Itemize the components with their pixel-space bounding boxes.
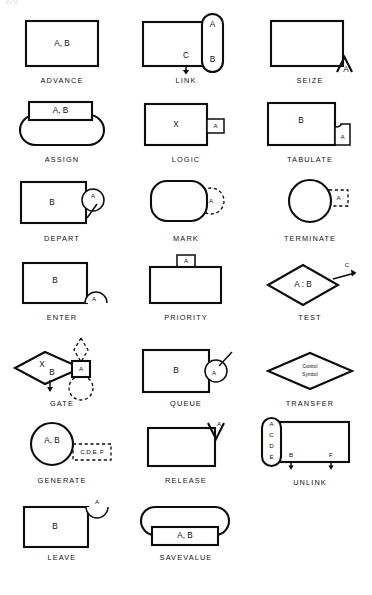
symbol-logic: X A LOGIC [124, 97, 248, 164]
depart-caption: DEPART [44, 234, 80, 243]
depart-diagram: B A [7, 176, 117, 232]
queue-diagram: B A [131, 336, 241, 400]
link-operand-b-label: B [210, 55, 216, 64]
gate-caption: GATE [50, 399, 74, 408]
logic-diagram: X A [131, 97, 241, 153]
symbol-seize: A SEIZE [248, 12, 372, 85]
release-operand-label: A [217, 420, 222, 427]
page-number: 370 [5, 0, 18, 5]
depart-art: B A [0, 176, 124, 232]
savevalue-art: A, B [124, 495, 248, 551]
symbol-advance: A, B ADVANCE [0, 12, 124, 85]
queue-operand-b-label: B [173, 366, 179, 375]
transfer-diagram: Control Symbol [255, 336, 365, 400]
test-arrowhead [351, 270, 357, 277]
unlink-art: A C D E B F [248, 418, 372, 474]
assign-caption: ASSIGN [45, 155, 80, 164]
block-symbol-sheet: A, B ADVANCE A B C LINK [0, 12, 372, 595]
unlink-arrowhead-f [328, 466, 333, 471]
gate-operand-b-label: B [49, 368, 55, 377]
unlink-arrowhead-b [288, 466, 293, 471]
advance-art: A, B [0, 12, 124, 74]
tabulate-diagram: B A [255, 97, 365, 153]
queue-caption: QUEUE [170, 399, 202, 408]
symbol-depart: B A DEPART [0, 176, 124, 243]
generate-diagram: A, B C,D,E, F [7, 418, 117, 474]
link-caption: LINK [176, 76, 197, 85]
gate-arrowhead [47, 387, 53, 392]
symbol-generate: A, B C,D,E, F GENERATE [0, 418, 124, 487]
enter-caption: ENTER [47, 313, 78, 322]
symbol-unlink: A C D E B F UNLINK [248, 418, 372, 487]
gate-diagram: X B A [7, 336, 117, 400]
release-art: A [124, 418, 248, 474]
leave-operand-a-label: A [95, 498, 100, 505]
symbol-row-6: A, B C,D,E, F GENERATE A RELEASE [0, 418, 372, 487]
advance-diagram: A, B [7, 12, 117, 74]
symbol-release: A RELEASE [124, 418, 248, 487]
priority-art: A [124, 255, 248, 311]
mark-diagram: A [131, 176, 241, 232]
priority-diagram: A [131, 255, 241, 311]
generate-art: A, B C,D,E, F [0, 418, 124, 474]
terminate-caption: TERMINATE [284, 234, 336, 243]
transfer-label-line1: Control [303, 364, 318, 369]
leave-operand-b-label: B [52, 522, 58, 531]
mark-caption: MARK [173, 234, 199, 243]
assign-diagram: A, B [7, 97, 117, 153]
symbol-enter: B A ENTER [0, 255, 124, 322]
unlink-operand-d-label: D [269, 442, 274, 449]
priority-caption: PRIORITY [164, 313, 208, 322]
release-caption: RELEASE [165, 476, 207, 485]
symbol-row-1: A, B ADVANCE A B C LINK [0, 12, 372, 85]
logic-operand-x-label: X [173, 120, 179, 129]
symbol-queue: B A QUEUE [124, 336, 248, 408]
unlink-diagram: A C D E B F [255, 418, 365, 474]
symbol-link: A B C LINK [124, 12, 248, 85]
symbol-gate: X B A GATE [0, 336, 124, 408]
savevalue-operand-label: A, B [177, 531, 193, 540]
symbol-tabulate: B A TABULATE [248, 97, 372, 164]
transfer-label-line2: Symbol [302, 372, 317, 377]
seize-caption: SEIZE [297, 76, 324, 85]
seize-operand-label: A [343, 65, 349, 74]
seize-art: A [248, 12, 372, 74]
symbol-row-3: B A DEPART A MARK A [0, 176, 372, 243]
gate-art: X B A [0, 336, 124, 400]
assign-art: A, B [0, 97, 124, 153]
seize-diagram: A [255, 12, 365, 74]
unlink-caption: UNLINK [293, 478, 327, 487]
link-arrowhead [183, 70, 189, 75]
enter-art: B A [0, 255, 124, 311]
enter-diagram: B A [7, 255, 117, 311]
gate-operand-x-label: X [39, 360, 45, 369]
terminate-diagram: A [255, 176, 365, 232]
savevalue-diagram: A, B [131, 495, 241, 551]
link-art: A B C [124, 12, 248, 74]
symbol-test: A : B C TEST [248, 255, 372, 322]
symbol-row-7: B A LEAVE A, B SAVEVALUE [0, 495, 372, 562]
advance-caption: ADVANCE [41, 76, 84, 85]
symbol-row-4: B A ENTER A PRIORITY A : B [0, 255, 372, 322]
link-diagram: A B C [131, 12, 241, 74]
test-operand-c-label: C [345, 261, 350, 268]
leave-art: B A [0, 495, 124, 551]
mark-art: A [124, 176, 248, 232]
link-operand-c-label: C [183, 51, 189, 60]
unlink-operand-c-label: C [269, 431, 274, 438]
transfer-caption: TRANSFER [286, 399, 335, 408]
symbol-row7-empty [248, 495, 372, 562]
symbol-mark: A MARK [124, 176, 248, 243]
enter-operand-b-label: B [52, 276, 58, 285]
tabulate-caption: TABULATE [287, 155, 333, 164]
symbol-transfer: Control Symbol TRANSFER [248, 336, 372, 408]
test-art: A : B C [248, 255, 372, 311]
generate-operand-cdef-label: C,D,E, F [80, 448, 104, 455]
logic-art: X A [124, 97, 248, 153]
test-diagram: A : B C [255, 255, 365, 311]
advance-operand-label: A, B [54, 39, 70, 48]
leave-caption: LEAVE [48, 553, 77, 562]
symbol-leave: B A LEAVE [0, 495, 124, 562]
test-caption: TEST [298, 313, 321, 322]
unlink-operand-b-label: B [289, 451, 293, 458]
